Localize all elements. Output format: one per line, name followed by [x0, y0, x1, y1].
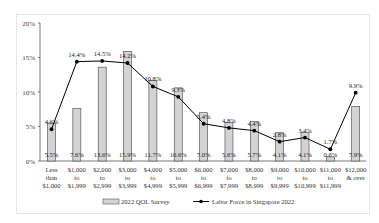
y-tick-label: 15% [22, 54, 35, 62]
x-axis-labels: Lessthan$1,000$1,000to$1,999$2,000to$2,9… [42, 166, 367, 189]
line-marker [151, 85, 155, 89]
legend-bar-swatch [103, 199, 119, 204]
legend-line-label: Labor Force in Singapore 2022 [212, 198, 294, 205]
bar-value-label: 7.0% [197, 151, 211, 158]
x-tick-label: $9,999 [271, 182, 290, 189]
line-marker [176, 95, 180, 99]
bar-value-label: 10.6% [170, 151, 188, 158]
line-value-label: 1.7% [323, 138, 337, 145]
x-tick-label: $5,000 [169, 166, 188, 173]
x-tick-label: $4,000 [144, 166, 163, 173]
bar-value-label: 7.6% [70, 151, 84, 158]
x-tick-label: & over [346, 174, 365, 181]
x-tick-label: $3,999 [118, 182, 137, 189]
y-tick-label: 10% [22, 89, 35, 97]
x-tick-label: $8,999 [245, 182, 264, 189]
bar-value-label: 15.9% [119, 151, 137, 158]
x-tick-label: $4,999 [144, 182, 163, 189]
line-value-label: 5.4% [197, 113, 211, 120]
y-tick-label: 20% [22, 20, 35, 28]
bar [98, 67, 106, 161]
legend-line-marker [199, 200, 203, 204]
x-tick-label: $1,000 [42, 182, 61, 189]
x-tick-label: $5,999 [169, 182, 188, 189]
combo-chart: 0%5%10%15%20% 5.5%7.6%13.6%15.9%11.7%10.… [0, 0, 379, 223]
x-tick-label: to [328, 174, 334, 181]
line-value-label: 4.6% [45, 118, 59, 125]
x-tick-label: Less [45, 166, 58, 173]
x-tick-label: to [150, 174, 156, 181]
x-tick-label: $12,000 [345, 166, 367, 173]
bar [149, 80, 157, 161]
line-value-label: 3.4% [298, 127, 312, 134]
x-tick-label: to [125, 174, 131, 181]
bar-value-label: 11.7% [145, 151, 162, 158]
x-tick-label: $8,000 [245, 166, 264, 173]
x-tick-label: $3,000 [118, 166, 137, 173]
bar-series [48, 51, 360, 161]
x-tick-label: to [277, 174, 283, 181]
x-tick-label: $7,000 [220, 166, 239, 173]
line-marker [252, 129, 256, 133]
y-tick-label: 5% [26, 123, 36, 131]
x-tick-label: $11,999 [320, 182, 342, 189]
line-marker [126, 61, 130, 65]
line-value-label: 4.4% [247, 120, 261, 127]
line-value-label: 14.5% [94, 50, 112, 57]
x-tick-label: to [252, 174, 258, 181]
x-tick-label: $7,999 [220, 182, 239, 189]
line-value-label: 14.4% [68, 51, 86, 58]
bar-value-label: 5.5% [45, 151, 59, 158]
line-value-label: 4.8% [222, 117, 236, 124]
x-tick-label: $11,000 [320, 166, 342, 173]
x-tick-label: to [226, 174, 232, 181]
bar-value-label: 4.1% [298, 151, 312, 158]
line-marker [278, 140, 282, 144]
line-marker [202, 122, 206, 126]
legend: 2022 QOL Survey Labor Force in Singapore… [103, 198, 294, 205]
bar-value-labels: 5.5%7.6%13.6%15.9%11.7%10.6%7.0%5.6%5.7%… [45, 151, 363, 158]
x-tick-label: to [100, 174, 106, 181]
x-tick-label: $6,000 [195, 166, 214, 173]
line-value-label: 9.9% [349, 82, 363, 89]
x-tick-label: $9,000 [271, 166, 290, 173]
bar-value-label: 4.1% [273, 151, 287, 158]
line-marker [227, 126, 231, 130]
x-tick-label: to [176, 174, 182, 181]
x-tick-label: $2,000 [93, 166, 112, 173]
bar [124, 51, 132, 161]
bar-value-label: 13.6% [94, 151, 112, 158]
x-tick-label: to [302, 174, 308, 181]
bar-value-label: 5.6% [222, 151, 236, 158]
line-value-label: 10.8% [144, 75, 162, 82]
x-tick-label: $10,999 [294, 182, 316, 189]
x-tick-label: $1,999 [68, 182, 87, 189]
line-marker [50, 127, 54, 131]
bar-value-label: 0.6% [323, 151, 337, 158]
line-value-label: 9.3% [171, 86, 185, 93]
x-tick-label: $6,999 [195, 182, 214, 189]
x-tick-label: $10,000 [294, 166, 316, 173]
x-tick-label: $2,999 [93, 182, 112, 189]
line-marker [328, 147, 332, 151]
x-tick-label: to [74, 174, 80, 181]
line-value-label: 14.2% [119, 52, 137, 59]
line-marker [303, 136, 307, 140]
legend-bar-label: 2022 QOL Survey [121, 198, 170, 205]
x-tick-label: than [46, 174, 58, 181]
bar-value-label: 5.7% [247, 151, 261, 158]
line-value-label: 2.8% [273, 131, 287, 138]
line-marker [75, 60, 79, 64]
bar-value-label: 7.9% [349, 151, 363, 158]
y-tick-label: 0% [26, 158, 36, 166]
line-marker [100, 59, 104, 63]
line-marker [354, 91, 358, 95]
x-tick-label: to [201, 174, 207, 181]
x-tick-label: $1,000 [68, 166, 87, 173]
